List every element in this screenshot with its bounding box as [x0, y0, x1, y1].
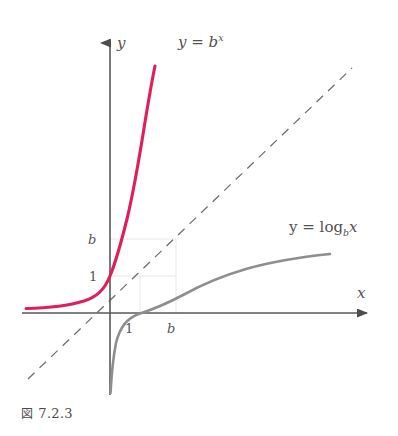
figure-container: y = bx y = logbx y x b 1 1 b 図7.2.3 [0, 0, 398, 436]
logarithm-curve [111, 254, 331, 393]
exp-label-text: y = b [178, 33, 218, 51]
curve-label-logarithm: y = logbx [289, 220, 357, 237]
x-axis-label: x [357, 286, 365, 301]
x-tick-label-b: b [167, 322, 175, 335]
y-axis-label: y [117, 36, 125, 51]
log-label-text: y = log [289, 218, 343, 236]
y-tick-label-1: 1 [89, 270, 97, 283]
caption-symbol: 図 [21, 407, 33, 421]
y-tick-label-b: b [88, 233, 96, 246]
log-label-suffix: x [349, 218, 357, 236]
x-tick-label-1: 1 [125, 322, 133, 335]
figure-caption: 図7.2.3 [21, 404, 73, 421]
exp-label-exponent: x [218, 32, 223, 43]
curve-label-exponential: y = bx [178, 33, 223, 50]
caption-number: 7.2.3 [38, 406, 73, 421]
